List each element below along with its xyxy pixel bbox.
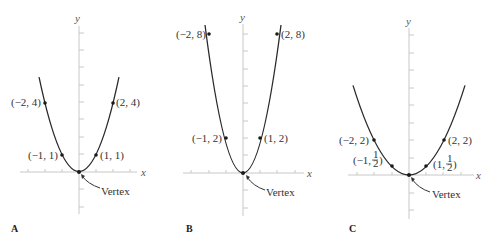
point-pos1	[258, 136, 262, 140]
figure: y x (−2, 4) (2, 4) (−1, 1) (1, 1) Vertex…	[0, 0, 485, 250]
label-neg1-2: (−1, 2)	[192, 132, 222, 145]
vertex-arrow	[412, 179, 430, 192]
vertex-label: Vertex	[266, 186, 295, 198]
y-ticks	[79, 33, 84, 207]
x-axis-label: x	[140, 166, 146, 178]
point-pos1	[424, 164, 428, 168]
label-1-half: (1, 1 2 )	[433, 152, 457, 173]
label-neg2-8: (−2, 8)	[176, 28, 206, 41]
vertex-point	[407, 173, 411, 177]
x-axis-label: x	[306, 167, 312, 179]
point-neg1	[60, 153, 64, 157]
point-neg1	[224, 136, 228, 140]
x-axis-label: x	[475, 169, 481, 181]
point-pos2	[442, 138, 446, 142]
label-neg2-4: (−2, 4)	[11, 96, 41, 109]
y-ticks	[409, 35, 414, 210]
label-2-8: (2, 8)	[281, 28, 305, 41]
vertex-point	[241, 171, 245, 175]
point-pos2	[111, 101, 115, 105]
svg-text:2: 2	[447, 161, 453, 173]
label-1-1: (1, 1)	[100, 149, 124, 162]
vertex-point	[77, 170, 81, 174]
y-axis-label: y	[239, 11, 245, 23]
y-ticks	[243, 34, 248, 208]
label-1-2: (1, 2)	[264, 132, 288, 145]
svg-text:(1,: (1,	[433, 158, 445, 171]
vertex-arrow	[247, 177, 265, 190]
panel-letter: C	[349, 223, 356, 234]
panel-c: y x (−2, 2) (2, 2) (−1, 1 2 ) (1, 1 2 ) …	[339, 15, 481, 234]
label-neg2-2: (−2, 2)	[339, 134, 369, 147]
point-neg2	[372, 138, 376, 142]
panel-b: y x (−2, 8) (2, 8) (−1, 2) (1, 2) Vertex…	[176, 11, 312, 234]
point-pos2	[275, 32, 279, 36]
point-neg2	[207, 32, 211, 36]
label-2-2: (2, 2)	[448, 134, 472, 147]
point-neg1	[390, 164, 394, 168]
vertex-label: Vertex	[432, 188, 461, 200]
vertex-arrow	[82, 176, 100, 188]
panel-letter: A	[11, 223, 19, 234]
y-axis-label: y	[405, 15, 411, 27]
vertex-label: Vertex	[101, 185, 130, 197]
panel-a: y x (−2, 4) (2, 4) (−1, 1) (1, 1) Vertex…	[11, 12, 146, 234]
label-neg1-1: (−1, 1)	[28, 149, 58, 162]
arrowhead-icon	[411, 177, 415, 182]
arrowhead-icon	[246, 175, 250, 180]
point-neg2	[43, 101, 47, 105]
y-axis-label: y	[74, 12, 80, 24]
label-2-4: (2, 4)	[116, 96, 140, 109]
point-pos1	[94, 153, 98, 157]
svg-text:): )	[379, 154, 383, 167]
label-neg1-half: (−1, 1 2 )	[353, 148, 383, 169]
panel-letter: B	[186, 223, 193, 234]
svg-text:2: 2	[373, 157, 379, 169]
svg-text:): )	[453, 158, 457, 171]
svg-text:(−1,: (−1,	[353, 154, 371, 167]
